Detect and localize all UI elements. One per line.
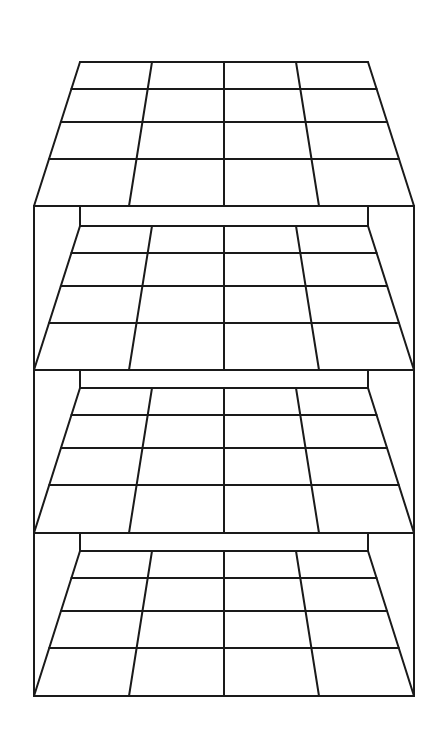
grid-column-line (129, 388, 152, 533)
grid-column-line (129, 226, 152, 370)
grid-column-line (296, 226, 319, 370)
grid-side-edge (34, 388, 80, 533)
grid-column-line (296, 551, 319, 696)
grid-side-edge (368, 226, 414, 370)
grid-side-edge (368, 388, 414, 533)
grid-column-line (129, 62, 152, 206)
grid-side-edge (34, 551, 80, 696)
grid-column-line (129, 551, 152, 696)
grid-side-edge (368, 62, 414, 206)
grid-side-edge (34, 226, 80, 370)
stacked-grid-diagram: Stacked grid layers (0, 0, 437, 729)
grid-side-edge (368, 551, 414, 696)
grid-column-line (296, 62, 319, 206)
grid-column-line (296, 388, 319, 533)
diagram-svg (0, 0, 437, 729)
grid-side-edge (34, 62, 80, 206)
